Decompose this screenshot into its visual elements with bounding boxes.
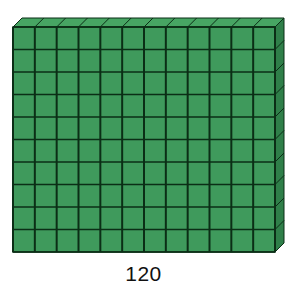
block-count-label: 120 <box>0 262 287 285</box>
